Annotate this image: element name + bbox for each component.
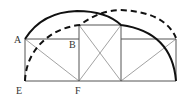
label-B: B	[69, 39, 76, 50]
frame-lines	[25, 25, 176, 81]
geometry-diagram: A B E F	[0, 0, 186, 101]
right-rect-diagonal	[121, 39, 176, 81]
solid-arc	[25, 11, 176, 81]
construction-lines	[25, 25, 176, 81]
dashed-arc	[25, 10, 176, 81]
label-E: E	[16, 85, 22, 96]
label-A: A	[14, 34, 22, 45]
label-F: F	[75, 85, 81, 96]
